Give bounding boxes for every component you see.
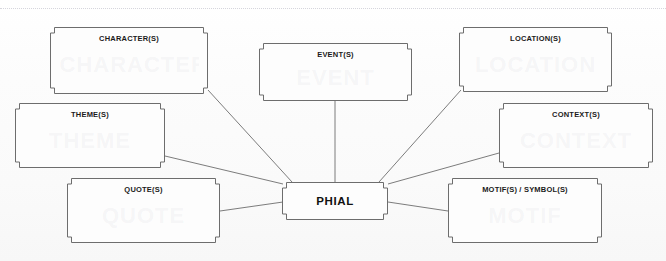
node-contexts[interactable]: CONTEXTCONTEXT(S) [499, 103, 653, 168]
node-phial[interactable]: PHIAL [282, 182, 388, 220]
node-label-quotes: QUOTE(S) [67, 185, 220, 194]
node-label-phial: PHIAL [282, 195, 388, 207]
link-locations [379, 90, 461, 182]
node-label-characters: CHARACTER(S) [50, 34, 208, 43]
node-motifs[interactable]: MOTIFMOTIF(S) / SYMBOL(S) [448, 178, 602, 243]
node-label-themes: THEME(S) [15, 110, 165, 119]
node-locations[interactable]: LOCATIONLOCATION(S) [459, 27, 612, 92]
node-characters[interactable]: CHARACTERCHARACTER(S) [50, 27, 208, 94]
node-label-locations: LOCATION(S) [459, 34, 612, 43]
diagram-canvas: CHARACTERCHARACTER(S)EVENTEVENT(S)LOCATI… [0, 0, 666, 261]
node-themes[interactable]: THEMETHEME(S) [15, 103, 165, 168]
node-quotes[interactable]: QUOTEQUOTE(S) [67, 178, 220, 243]
node-label-motifs: MOTIF(S) / SYMBOL(S) [448, 185, 602, 194]
node-label-events: EVENT(S) [259, 50, 412, 59]
node-label-contexts: CONTEXT(S) [499, 110, 653, 119]
link-motifs [388, 202, 448, 211]
link-characters [208, 90, 292, 182]
link-quotes [220, 202, 283, 211]
node-events[interactable]: EVENTEVENT(S) [259, 43, 412, 101]
